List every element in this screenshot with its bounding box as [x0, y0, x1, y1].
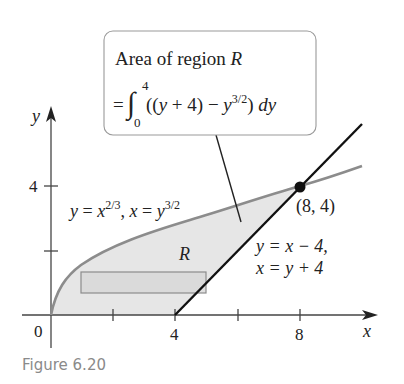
figure-6-20: Area of region R = ∫ 4 0 ((y + 4) − y3/2… — [0, 0, 404, 384]
y-axis-label: y — [30, 106, 40, 126]
callout-equals: = — [113, 94, 124, 115]
callout-integrand: ((y + 4) − y3/2) dy — [146, 92, 277, 116]
region-label: R — [178, 244, 190, 264]
origin-label: 0 — [34, 322, 43, 341]
figure-caption: Figure 6.20 — [22, 356, 106, 374]
integral-upper-limit: 4 — [142, 78, 149, 93]
curve-label: y = x2/3, x = y3/2 — [68, 198, 180, 221]
x-tick-label-4: 4 — [170, 325, 179, 344]
intersection-label: (8, 4) — [296, 196, 335, 217]
line-label-2: x = y + 4 — [255, 258, 323, 278]
x-tick-label-8: 8 — [295, 325, 304, 344]
x-axis-label: x — [362, 321, 371, 341]
intersection-point — [295, 182, 306, 193]
representative-rectangle — [81, 272, 206, 293]
line-label-1: y = x − 4, — [254, 236, 328, 256]
callout-title: Area of region R — [115, 48, 243, 69]
y-tick-label-4: 4 — [29, 177, 38, 196]
integral-lower-limit: 0 — [134, 115, 141, 130]
